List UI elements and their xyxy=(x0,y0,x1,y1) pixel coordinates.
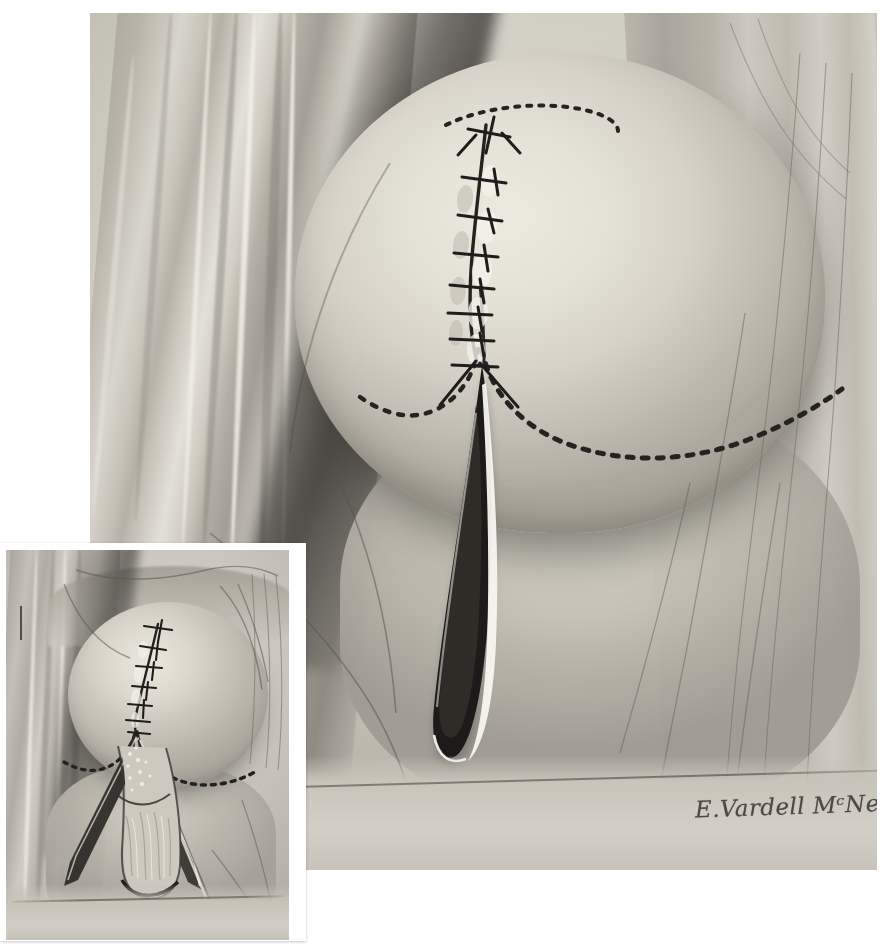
inset-frame xyxy=(0,543,306,941)
inset-scale-tick xyxy=(20,606,22,640)
figure-canvas: E.Vardell MᶜNett xyxy=(0,0,889,948)
inset-drape-sheet xyxy=(6,884,289,940)
inset-suture-line xyxy=(6,550,289,940)
inset-illustration xyxy=(6,550,289,940)
